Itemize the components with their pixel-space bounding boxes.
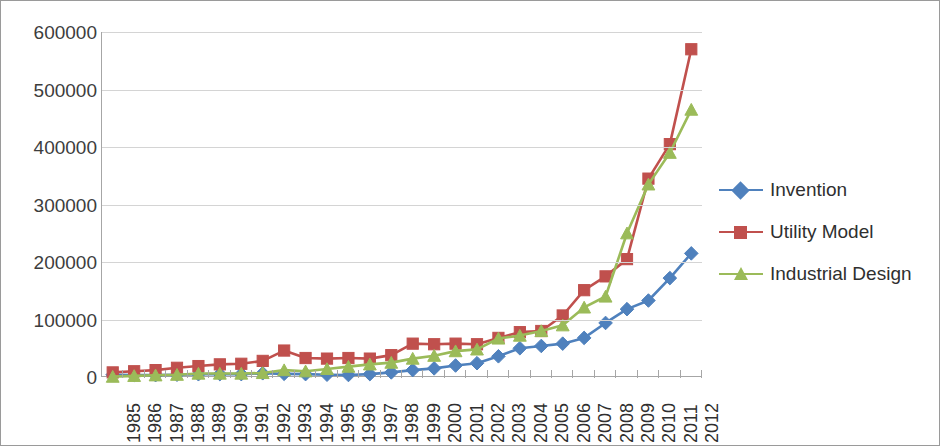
x-axis-tick-label: 2007 (596, 403, 614, 443)
data-point-marker (449, 359, 463, 373)
data-point-marker (621, 227, 634, 239)
x-axis-tick-mark (465, 370, 466, 378)
x-axis: 1985198619871988198919901991199219931994… (101, 379, 701, 445)
x-axis-tick-label: 1994 (318, 403, 336, 443)
x-axis-tick-mark (251, 370, 252, 378)
data-point-marker (534, 339, 548, 353)
data-point-marker (427, 362, 441, 376)
x-axis-tick-label: 1990 (232, 403, 250, 443)
x-axis-tick-label: 1999 (425, 403, 443, 443)
x-axis-tick-mark (294, 370, 295, 378)
x-axis-tick-label: 1991 (253, 403, 271, 443)
x-axis-tick-mark (508, 370, 509, 378)
y-axis-tick-label: 0 (5, 368, 97, 387)
legend-swatch-icon (719, 181, 763, 199)
legend-item-utility-model[interactable]: Utility Model (719, 211, 934, 253)
x-axis-tick-mark (594, 370, 595, 378)
x-axis-tick-label: 2006 (575, 403, 593, 443)
x-axis-tick-label: 1987 (168, 403, 186, 443)
data-point-marker (279, 345, 290, 356)
legend-label: Utility Model (770, 221, 873, 243)
y-axis-tick-label: 100000 (5, 310, 97, 329)
x-axis-tick-label: 1996 (360, 403, 378, 443)
legend-swatch-icon (719, 223, 763, 241)
x-axis-tick-mark (337, 370, 338, 378)
gridline (102, 32, 702, 33)
data-point-marker (406, 363, 420, 377)
x-axis-tick-label: 1985 (125, 403, 143, 443)
x-axis-tick-mark (444, 370, 445, 378)
data-point-marker (686, 44, 697, 55)
legend-marker-square-icon (734, 226, 747, 239)
y-axis-tick-label: 200000 (5, 253, 97, 272)
gridline (102, 320, 702, 321)
x-axis-tick-mark (701, 370, 702, 378)
data-point-marker (257, 355, 268, 366)
x-axis-tick-label: 1995 (339, 403, 357, 443)
data-point-marker (579, 285, 590, 296)
x-axis-tick-label: 1993 (296, 403, 314, 443)
gridline (102, 147, 702, 148)
data-point-marker (578, 301, 591, 313)
data-point-marker (513, 341, 527, 355)
gridline (102, 262, 702, 263)
legend-marker-triangle-icon (734, 267, 748, 280)
x-axis-tick-label: 2004 (532, 403, 550, 443)
data-point-marker (599, 290, 612, 302)
x-axis-tick-label: 2003 (510, 403, 528, 443)
legend-swatch-icon (719, 265, 763, 283)
x-axis-tick-label: 1997 (382, 403, 400, 443)
legend-item-invention[interactable]: Invention (719, 169, 934, 211)
y-axis-tick-label: 600000 (5, 23, 97, 42)
y-axis-tick-label: 300000 (5, 195, 97, 214)
x-axis-tick-mark (144, 370, 145, 378)
data-point-marker (492, 350, 506, 364)
legend-label: Industrial Design (770, 263, 912, 285)
data-point-marker (556, 337, 570, 351)
x-axis-tick-label: 1998 (403, 403, 421, 443)
x-axis-tick-label: 1988 (189, 403, 207, 443)
x-axis-tick-mark (551, 370, 552, 378)
data-point-marker (600, 271, 611, 282)
legend-item-industrial-design[interactable]: Industrial Design (719, 253, 934, 295)
data-point-marker (470, 356, 484, 370)
series-industrial-design (106, 103, 697, 382)
gridline (102, 90, 702, 91)
chart-container: 6000005000004000003000002000001000000 19… (0, 0, 940, 446)
series-utility-model (107, 44, 697, 378)
x-axis-tick-mark (615, 370, 616, 378)
x-axis-tick-mark (230, 370, 231, 378)
x-axis-tick-label: 2001 (468, 403, 486, 443)
x-axis-tick-mark (165, 370, 166, 378)
x-axis-tick-mark (358, 370, 359, 378)
plot-area (101, 32, 701, 377)
x-axis-tick-label: 2009 (639, 403, 657, 443)
x-axis-tick-mark (637, 370, 638, 378)
x-axis-tick-mark (572, 370, 573, 378)
x-axis-tick-label: 2012 (703, 403, 721, 443)
x-axis-tick-label: 1992 (275, 403, 293, 443)
x-axis-tick-mark (658, 370, 659, 378)
x-axis-tick-label: 2010 (660, 403, 678, 443)
x-axis-tick-mark (315, 370, 316, 378)
gridline (102, 205, 702, 206)
x-axis-tick-label: 1989 (210, 403, 228, 443)
data-point-marker (621, 254, 632, 265)
chart-legend: InventionUtility ModelIndustrial Design (719, 169, 934, 295)
x-axis-tick-mark (208, 370, 209, 378)
x-axis-tick-label: 2002 (489, 403, 507, 443)
x-axis-tick-mark (122, 370, 123, 378)
data-point-marker (685, 103, 698, 115)
y-axis-tick-label: 400000 (5, 138, 97, 157)
x-axis-tick-mark (380, 370, 381, 378)
y-axis: 6000005000004000003000002000001000000 (1, 1, 97, 446)
x-axis-tick-label: 2005 (553, 403, 571, 443)
legend-label: Invention (770, 179, 847, 201)
x-axis-tick-label: 2011 (682, 404, 700, 443)
x-axis-tick-mark (401, 370, 402, 378)
x-axis-tick-label: 2000 (446, 403, 464, 443)
x-axis-tick-mark (272, 370, 273, 378)
data-point-marker (620, 302, 634, 316)
x-axis-tick-mark (187, 370, 188, 378)
x-axis-tick-mark (422, 370, 423, 378)
